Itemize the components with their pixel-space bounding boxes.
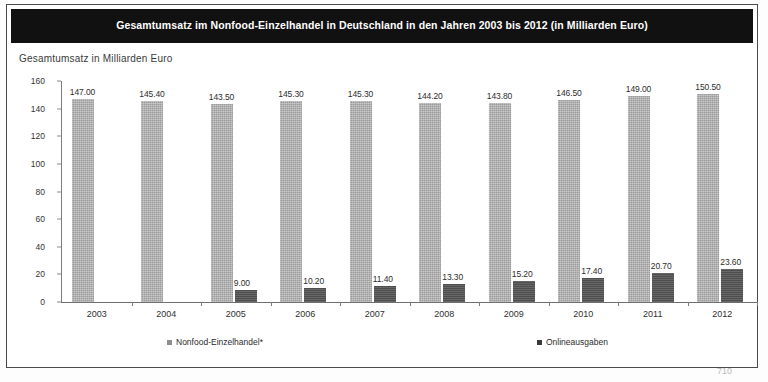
- x-axis-tick-mark: [340, 302, 341, 306]
- bar-value-label-onlineausgaben: 9.00: [234, 278, 250, 288]
- bar-nonfood: [419, 103, 441, 302]
- x-axis-label-2006: 2006: [295, 309, 315, 319]
- bar-value-label-onlineausgaben: 11.40: [373, 274, 393, 284]
- bar-value-label-nonfood: 143.50: [209, 92, 234, 102]
- x-axis-label-2007: 2007: [365, 309, 385, 319]
- bar-value-label-nonfood: 150.50: [695, 82, 720, 92]
- x-axis-tick-mark: [201, 302, 202, 306]
- bar-value-label-nonfood: 143.80: [487, 91, 512, 101]
- y-axis-tick-labels: 020406080100120140160: [17, 81, 51, 303]
- bar-nonfood: [280, 101, 302, 302]
- x-axis-tick-mark: [410, 302, 411, 306]
- x-axis-tick-mark: [618, 302, 619, 306]
- square-marker-icon: [537, 340, 542, 345]
- page-title: Gesamtumsatz im Nonfood-Einzelhandel in …: [116, 20, 648, 32]
- x-axis-tick-mark: [271, 302, 272, 306]
- legend-item-onlineausgaben: Onlineausgaben: [537, 337, 608, 347]
- bar-nonfood: [211, 104, 233, 302]
- bar-onlineausgaben: [582, 278, 604, 302]
- bar-value-label-onlineausgaben: 17.40: [581, 266, 602, 276]
- bar-value-label-onlineausgaben: 15.20: [512, 269, 533, 279]
- y-axis-tick-mark: [57, 136, 61, 137]
- y-axis-tick-mark: [57, 219, 61, 220]
- y-axis-tick-mark: [57, 163, 61, 164]
- y-axis-tick-label: 120: [31, 131, 45, 141]
- x-axis-label-2008: 2008: [434, 309, 454, 319]
- bar-value-label-nonfood: 147.00: [70, 87, 95, 97]
- y-axis-tick-mark: [57, 274, 61, 275]
- square-marker-icon: [167, 340, 172, 345]
- chart-legend: Nonfood-Einzelhandel*Onlineausgaben: [17, 337, 761, 357]
- x-axis-label-2004: 2004: [156, 309, 176, 319]
- chart-title-bar: Gesamtumsatz im Nonfood-Einzelhandel in …: [11, 9, 753, 43]
- bar-value-label-nonfood: 145.30: [278, 89, 303, 99]
- bar-onlineausgaben: [652, 273, 674, 302]
- bar-value-label-nonfood: 144.20: [417, 91, 442, 101]
- y-axis-tick-mark: [57, 246, 61, 247]
- page-caption: [8, 369, 628, 382]
- y-axis-tick-label: 100: [31, 159, 45, 169]
- bar-nonfood: [628, 96, 650, 302]
- legend-label: Nonfood-Einzelhandel*: [176, 337, 263, 347]
- x-axis-tick-mark: [132, 302, 133, 306]
- y-axis-tick-mark: [57, 302, 61, 303]
- bar-value-label-onlineausgaben: 20.70: [651, 261, 672, 271]
- x-axis-tick-mark: [757, 302, 758, 306]
- bar-onlineausgaben: [374, 286, 396, 302]
- y-axis-tick-label: 0: [40, 297, 45, 307]
- y-axis-caption: Gesamtumsatz in Milliarden Euro: [19, 53, 172, 64]
- bar-nonfood: [141, 101, 163, 302]
- x-axis-category-labels: 2003200420052006200720082009201020112012: [62, 309, 757, 329]
- x-axis-label-2003: 2003: [87, 309, 107, 319]
- bar-onlineausgaben: [513, 281, 535, 302]
- y-axis-tick-label: 20: [36, 269, 45, 279]
- x-axis-label-2005: 2005: [226, 309, 246, 319]
- y-axis-tick-label: 60: [36, 214, 45, 224]
- bar-value-label-nonfood: 149.00: [626, 84, 651, 94]
- y-axis-tick-mark: [57, 108, 61, 109]
- bar-nonfood: [72, 99, 94, 302]
- x-axis-label-2011: 2011: [643, 309, 662, 319]
- y-axis-tick-label: 80: [36, 187, 45, 197]
- x-axis-tick-mark: [549, 302, 550, 306]
- bar-onlineausgaben: [721, 269, 743, 302]
- x-axis-label-2010: 2010: [573, 309, 593, 319]
- plot-area: 020406080100120140160 147.00145.40143.50…: [17, 81, 761, 333]
- bar-value-label-onlineausgaben: 23.60: [720, 257, 741, 267]
- bar-value-label-nonfood: 145.30: [348, 89, 373, 99]
- x-axis-tick-mark: [688, 302, 689, 306]
- y-axis-tick-mark: [57, 191, 61, 192]
- bar-value-label-nonfood: 146.50: [556, 88, 581, 98]
- bar-nonfood: [697, 94, 719, 302]
- legend-item-nonfood: Nonfood-Einzelhandel*: [167, 337, 263, 347]
- bar-onlineausgaben: [443, 284, 465, 302]
- bar-nonfood: [489, 103, 511, 302]
- y-axis-tick-mark: [57, 81, 61, 82]
- bar-value-label-onlineausgaben: 10.20: [303, 276, 324, 286]
- y-axis-tick-label: 140: [31, 104, 45, 114]
- bar-onlineausgaben: [304, 288, 326, 302]
- bar-nonfood: [350, 101, 372, 302]
- figure-frame: Gesamtumsatz im Nonfood-Einzelhandel in …: [6, 4, 758, 368]
- page-number: 710: [717, 366, 732, 378]
- legend-label: Onlineausgaben: [546, 337, 608, 347]
- x-axis-tick-mark: [479, 302, 480, 306]
- bar-nonfood: [558, 100, 580, 302]
- x-axis-label-2009: 2009: [504, 309, 524, 319]
- bar-value-label-onlineausgaben: 13.30: [442, 272, 463, 282]
- bars-container: 147.00145.40143.509.00145.3010.20145.301…: [62, 81, 757, 302]
- y-axis-tick-label: 40: [36, 242, 45, 252]
- x-axis-label-2012: 2012: [712, 309, 732, 319]
- bar-value-label-nonfood: 145.40: [139, 89, 164, 99]
- y-axis-tick-label: 160: [31, 76, 45, 86]
- bar-onlineausgaben: [235, 290, 257, 302]
